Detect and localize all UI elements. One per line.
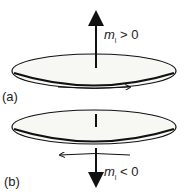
disk-b	[12, 110, 176, 144]
panel-b	[12, 110, 176, 180]
panel-a	[12, 18, 176, 89]
moment-relation: > 0	[116, 27, 138, 42]
moment-relation: < 0	[116, 164, 138, 179]
moment-symbol: m	[104, 164, 115, 179]
panel-a-label: (a)	[2, 89, 18, 104]
moment-label-b: ml < 0	[104, 164, 138, 181]
disk-a	[12, 54, 176, 88]
moment-label-a: ml > 0	[104, 27, 138, 44]
diagram-canvas	[0, 0, 189, 196]
panel-b-label: (b)	[4, 174, 20, 189]
moment-symbol: m	[104, 27, 115, 42]
